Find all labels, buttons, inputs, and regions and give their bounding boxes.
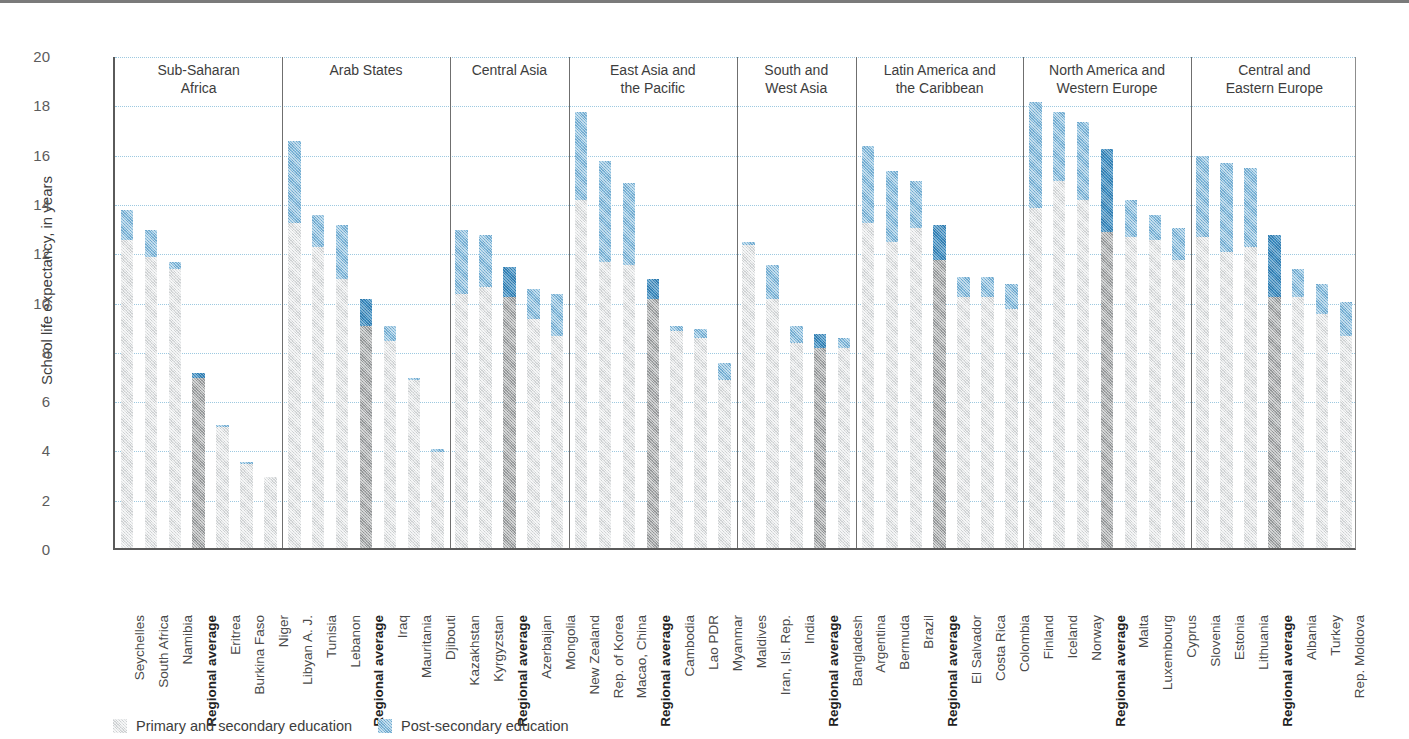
bar-country xyxy=(957,277,970,548)
gridline xyxy=(115,402,1355,403)
legend-swatch-icon xyxy=(113,719,127,733)
bar-country xyxy=(718,363,731,548)
y-tick-label: 18 xyxy=(10,97,50,114)
bar-regional-average xyxy=(933,225,946,548)
bar-regional-average xyxy=(360,299,373,548)
x-label-country: Mauritania xyxy=(419,615,434,678)
bar-segment-post-secondary xyxy=(336,225,349,279)
legend-item-post-secondary[interactable]: Post-secondary education xyxy=(378,718,569,734)
bar-segment-primary-secondary xyxy=(312,247,325,548)
bar-segment-primary-secondary xyxy=(910,228,923,548)
y-tick-label: 8 xyxy=(10,344,50,361)
top-divider-rule xyxy=(0,0,1409,3)
bar-segment-post-secondary xyxy=(551,294,564,336)
x-label-regional-average: Regional average xyxy=(1280,615,1295,727)
bar-country xyxy=(599,161,612,548)
bar-country xyxy=(312,215,325,548)
bar-country xyxy=(862,146,875,548)
bar-segment-primary-secondary xyxy=(288,223,301,548)
bar-segment-post-secondary xyxy=(933,225,946,260)
bar-country xyxy=(431,449,444,548)
bar-country xyxy=(1053,112,1066,548)
bar-segment-primary-secondary xyxy=(981,297,994,548)
legend-item-primary-secondary[interactable]: Primary and secondary education xyxy=(113,718,352,734)
x-label-country: Luxembourg xyxy=(1160,615,1175,690)
x-label-country: Maldives xyxy=(754,615,769,668)
x-label-regional-average: Regional average xyxy=(1113,615,1128,727)
bar-segment-primary-secondary xyxy=(145,257,158,548)
bar-regional-average xyxy=(814,334,827,548)
x-label-country: Colombia xyxy=(1017,615,1032,672)
bar-segment-primary-secondary xyxy=(718,380,731,548)
gridline xyxy=(115,254,1355,255)
bar-country xyxy=(216,425,229,548)
x-label-country: Seychelles xyxy=(132,615,147,680)
y-tick-label: 6 xyxy=(10,393,50,410)
x-label-country: Tunisia xyxy=(324,615,339,658)
bar-segment-primary-secondary xyxy=(121,240,134,548)
bar-segment-post-secondary xyxy=(455,230,468,294)
x-label-country: Kyrgyzstan xyxy=(491,615,506,682)
bar-segment-primary-secondary xyxy=(742,245,755,548)
bar-segment-post-secondary xyxy=(1125,200,1138,237)
region-separator xyxy=(569,57,570,548)
bar-segment-primary-secondary xyxy=(862,223,875,548)
x-label-country: India xyxy=(802,615,817,644)
bar-segment-post-secondary xyxy=(1005,284,1018,309)
bar-segment-primary-secondary xyxy=(790,343,803,548)
bar-segment-post-secondary xyxy=(957,277,970,297)
bar-segment-primary-secondary xyxy=(1125,237,1138,548)
bar-segment-post-secondary xyxy=(766,265,779,300)
x-label-country: Azerbaijan xyxy=(539,615,554,679)
bar-segment-post-secondary xyxy=(1292,269,1305,296)
x-label-regional-average: Regional average xyxy=(515,615,530,727)
gridlines xyxy=(115,57,1355,548)
legend-swatch-icon xyxy=(378,719,392,733)
bar-segment-post-secondary xyxy=(1053,112,1066,181)
bar-country xyxy=(551,294,564,548)
x-label-country: Burkina Faso xyxy=(252,615,267,695)
y-tick-label: 14 xyxy=(10,196,50,213)
bar-segment-primary-secondary xyxy=(838,348,851,548)
x-label-country: El Salvador xyxy=(969,615,984,684)
bar-segment-post-secondary xyxy=(694,329,707,339)
y-tick-label: 12 xyxy=(10,245,50,262)
gridline xyxy=(115,156,1355,157)
bar-segment-primary-secondary xyxy=(360,326,373,548)
bar-segment-primary-secondary xyxy=(1077,200,1090,548)
x-label-country: Albania xyxy=(1304,615,1319,660)
bar-segment-post-secondary xyxy=(1101,149,1114,233)
bar-segment-primary-secondary xyxy=(957,297,970,548)
legend-label: Primary and secondary education xyxy=(136,718,352,734)
bar-segment-primary-secondary xyxy=(647,299,660,548)
bar-segment-post-secondary xyxy=(599,161,612,262)
bar-segment-post-secondary xyxy=(431,449,444,451)
bar-country xyxy=(1340,302,1353,549)
bar-segment-primary-secondary xyxy=(1101,232,1114,548)
bar-segment-post-secondary xyxy=(216,425,229,427)
bar-segment-post-secondary xyxy=(360,299,373,326)
bar-segment-post-secondary xyxy=(1220,163,1233,252)
x-label-country: Lithuania xyxy=(1256,615,1271,670)
x-label-country: Norway xyxy=(1089,615,1104,661)
bar-segment-primary-secondary xyxy=(336,279,349,548)
y-tick-label: 4 xyxy=(10,442,50,459)
bar-segment-primary-secondary xyxy=(1292,297,1305,548)
bar-country xyxy=(838,338,851,548)
bar-regional-average xyxy=(1101,149,1114,548)
bar-segment-primary-secondary xyxy=(1244,247,1257,548)
x-label-country: Bangladesh xyxy=(850,615,865,686)
x-label-country: Rep. of Korea xyxy=(611,615,626,698)
bar-country xyxy=(384,326,397,548)
region-separator xyxy=(737,57,738,548)
bar-segment-post-secondary xyxy=(790,326,803,343)
x-label-country: Iran, Isl. Rep. xyxy=(778,615,793,695)
bar-segment-post-secondary xyxy=(862,146,875,222)
x-label-country: New Zealand xyxy=(587,615,602,695)
region-separator xyxy=(856,57,857,548)
bar-segment-post-secondary xyxy=(575,112,588,201)
bar-country xyxy=(527,289,540,548)
bar-country xyxy=(169,262,182,548)
x-label-country: Eritrea xyxy=(228,615,243,655)
bar-country xyxy=(790,326,803,548)
